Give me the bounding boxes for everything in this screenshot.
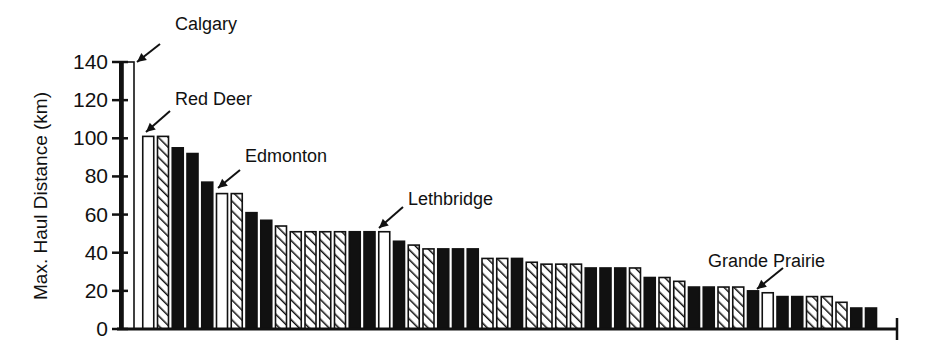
- bar-black: [349, 232, 360, 329]
- bar-black: [600, 268, 611, 329]
- bar-hatched: [497, 258, 508, 329]
- bar-black: [467, 249, 478, 329]
- bar-hatched: [423, 249, 434, 329]
- y-axis-label: Max. Haul Distance (km): [30, 92, 51, 300]
- bar-white-lethbridge: [379, 232, 390, 329]
- y-tick-label: 20: [85, 279, 108, 302]
- bar-black: [644, 278, 655, 329]
- bar-hatched: [541, 264, 552, 329]
- y-tick-label: 140: [73, 50, 108, 73]
- city-label: Grande Prairie: [708, 251, 825, 271]
- bar-black: [187, 154, 198, 329]
- bar-black: [777, 297, 788, 329]
- bar-hatched: [276, 226, 287, 329]
- bar-black: [748, 291, 759, 329]
- bar-black: [453, 249, 464, 329]
- bar-black: [703, 287, 714, 329]
- bar-white-red-deer: [143, 136, 154, 329]
- bar-black: [202, 182, 213, 329]
- y-tick-label: 40: [85, 241, 108, 264]
- bar-hatched: [718, 287, 729, 329]
- haul-distance-bar-chart: 020406080100120140 Max. Haul Distance (k…: [0, 0, 928, 359]
- bar-black: [172, 148, 183, 329]
- bar-black: [246, 213, 257, 329]
- bar-hatched: [807, 297, 818, 329]
- bar-hatched: [821, 297, 832, 329]
- bar-hatched: [408, 245, 419, 329]
- bar-black: [792, 297, 803, 329]
- y-tick-label: 120: [73, 88, 108, 111]
- bar-black: [615, 268, 626, 329]
- bar-white-grande-prairie: [762, 293, 773, 329]
- bar-hatched: [290, 232, 301, 329]
- bar-hatched: [674, 281, 685, 329]
- city-label: Lethbridge: [408, 189, 493, 209]
- city-label: Edmonton: [245, 146, 327, 166]
- bar-black: [364, 232, 375, 329]
- bar-black: [851, 308, 862, 329]
- bar-black: [585, 268, 596, 329]
- bar-hatched: [305, 232, 316, 329]
- bar-hatched: [733, 287, 744, 329]
- bar-hatched: [571, 264, 582, 329]
- bar-hatched: [556, 264, 567, 329]
- y-tick-label: 80: [85, 164, 108, 187]
- bar-hatched: [659, 278, 670, 329]
- y-tick-label: 60: [85, 203, 108, 226]
- bar-black: [689, 287, 700, 329]
- bar-hatched: [836, 302, 847, 329]
- bar-hatched: [630, 268, 641, 329]
- bar-hatched: [335, 232, 346, 329]
- bar-black: [438, 249, 449, 329]
- bar-hatched: [482, 258, 493, 329]
- bar-hatched: [526, 262, 537, 329]
- bar-black: [512, 258, 523, 329]
- city-label: Calgary: [175, 14, 237, 34]
- y-tick-label: 100: [73, 126, 108, 149]
- bar-hatched: [231, 194, 242, 329]
- bar-hatched: [320, 232, 331, 329]
- bar-black: [866, 308, 877, 329]
- bar-black: [394, 241, 405, 329]
- bar-white-calgary: [123, 62, 134, 329]
- bar-white-edmonton: [217, 194, 228, 329]
- city-label: Red Deer: [175, 89, 252, 109]
- y-tick-label: 0: [96, 317, 108, 340]
- bar-black: [261, 220, 272, 329]
- bar-hatched: [158, 136, 169, 329]
